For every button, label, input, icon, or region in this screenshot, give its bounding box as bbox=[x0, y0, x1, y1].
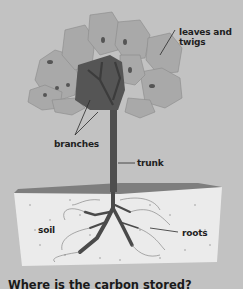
label-branches: branches bbox=[54, 139, 99, 149]
label-leaves-line2: twigs bbox=[179, 37, 232, 47]
question-heading: Where is the carbon stored? bbox=[8, 278, 192, 289]
label-leaves-and-twigs: leaves and twigs bbox=[179, 27, 232, 47]
label-leaves-line1: leaves and bbox=[179, 27, 232, 37]
label-soil: soil bbox=[38, 225, 55, 235]
label-trunk: trunk bbox=[137, 158, 164, 168]
label-roots: roots bbox=[182, 228, 207, 238]
trunk-graphic bbox=[110, 100, 117, 192]
canopy-graphic bbox=[28, 12, 182, 118]
